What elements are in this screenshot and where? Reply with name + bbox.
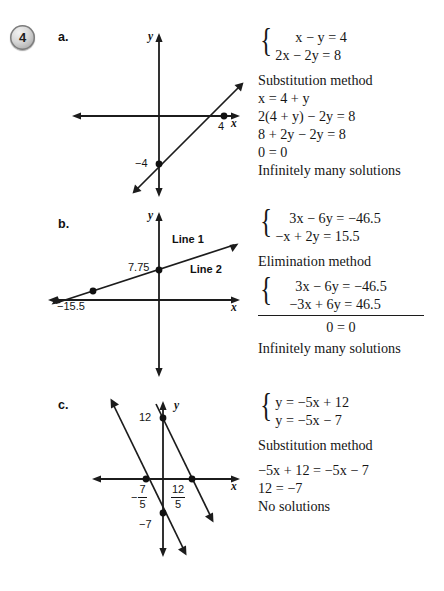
method-a: Substitution method [258, 71, 401, 89]
conclusion-b: Infinitely many solutions [258, 339, 424, 357]
point-0-12-c [160, 415, 167, 422]
spacer [258, 270, 424, 277]
elimination-system-b: { 3x − 6y = −46.5 −3x + 6y = 46.5 [258, 277, 424, 313]
line-a [136, 86, 240, 190]
work-part-c: { y = −5x + 12 y = −5x − 7 Substitution … [258, 393, 373, 515]
elimination-eq-b-2: −3x + 6y = 46.5 [275, 295, 386, 313]
tick-label-y-7-75-b: 7.75 [128, 261, 149, 273]
point-4-0-a [221, 113, 228, 120]
graph-part-a: y x 4 −4 [0, 0, 250, 200]
system-brace-c: { [260, 388, 272, 429]
tick-label-y-12-c: 12 [139, 411, 151, 423]
equation-c-2: y = −5x − 7 [275, 411, 349, 429]
point-0-neg4-a [156, 161, 163, 168]
system-part-a: { x − y = 4 2x − 2y = 8 [258, 28, 401, 64]
work-part-b: { 3x − 6y = −46.5 −x + 2y = 15.5 Elimina… [258, 209, 424, 357]
graph-part-c: y x 12 −7 − 7 5 12 5 [0, 380, 250, 591]
equation-a-2: 2x − 2y = 8 [275, 46, 346, 64]
tick-label-x-neg-7-over-5-c: − 7 5 [131, 484, 147, 510]
y-axis-arrow-down-b [155, 368, 162, 377]
equation-b-1: 3x − 6y = −46.5 [275, 209, 380, 227]
fraction-denominator-5: 5 [174, 499, 182, 511]
point-neg7-over-5-0-c [143, 476, 150, 483]
x-axis-label-c: x [231, 480, 237, 492]
y-axis-label-c: y [174, 399, 179, 411]
step-a-4: 0 = 0 [258, 143, 401, 161]
step-a-3: 8 + 2y − 2y = 8 [258, 125, 401, 143]
fraction-denominator-5: 5 [138, 499, 146, 511]
y-axis-arrow-down-c [159, 548, 166, 557]
point-12-over-5-0-c [189, 476, 196, 483]
method-b: Elimination method [258, 252, 424, 270]
y-axis-label-b: y [148, 209, 153, 221]
tick-label-x-neg15-5-b: −15.5 [57, 300, 85, 312]
system-part-b: { 3x − 6y = −46.5 −x + 2y = 15.5 [258, 209, 424, 245]
elimination-eq-b-1: 3x − 6y = −46.5 [275, 277, 386, 295]
y-axis-arrow-up-a [155, 33, 162, 42]
spacer [258, 245, 424, 252]
tick-label-x-4-a: 4 [218, 120, 224, 132]
work-part-a: { x − y = 4 2x − 2y = 8 Substitution met… [258, 28, 401, 179]
point-neg15-5-0-b [90, 288, 97, 295]
point-0-neg7-c [160, 510, 167, 517]
spacer [258, 64, 401, 71]
y-axis-label-a: y [148, 30, 153, 42]
spacer [258, 429, 373, 436]
method-c: Substitution method [258, 436, 373, 454]
tick-label-y-neg4-a: −4 [135, 157, 148, 169]
system-part-c: { y = −5x + 12 y = −5x − 7 [258, 393, 373, 429]
line-b-arrow-right [230, 244, 239, 253]
step-c-2: 12 = −7 [258, 479, 373, 497]
y-axis-arrow-up-c [159, 401, 166, 410]
x-axis-label-a: x [231, 117, 237, 129]
system-brace-a: { [260, 23, 272, 64]
x-axis-arrow-left-c [92, 475, 101, 482]
x-axis-label-b: x [231, 301, 237, 313]
fraction-sign-neg7-5: − [131, 491, 137, 503]
equation-a-1: x − y = 4 [275, 28, 346, 46]
graph-part-b: y x Line 1 Line 2 7.75 −15.5 [0, 190, 250, 380]
x-axis-arrow-left-a [72, 112, 81, 119]
step-a-1: x = 4 + y [258, 89, 401, 107]
line-2-label-b: Line 2 [190, 263, 222, 275]
tick-label-y-neg7-c: −7 [139, 518, 152, 530]
conclusion-c: No solutions [258, 497, 373, 515]
spacer [258, 454, 373, 461]
fraction-numerator-7: 7 [138, 484, 146, 496]
point-0-7-75-b [156, 267, 163, 274]
conclusion-a: Infinitely many solutions [258, 161, 401, 179]
elimination-sum-b: 0 = 0 [258, 315, 424, 336]
worked-solutions-page: 4 a. y x 4 −4 { x − y = [0, 0, 444, 591]
y-axis-arrow-up-b [155, 212, 162, 221]
fraction-numerator-12: 12 [171, 484, 185, 496]
step-a-2: 2(4 + y) − 2y = 8 [258, 107, 401, 125]
tick-label-x-12-over-5-c: 12 5 [170, 484, 185, 510]
system-brace-b: { [260, 204, 272, 245]
elimination-brace-b: { [260, 272, 272, 313]
equation-c-1: y = −5x + 12 [275, 393, 349, 411]
step-c-1: −5x + 12 = −5x − 7 [258, 461, 373, 479]
line-1-label-b: Line 1 [172, 233, 204, 245]
equation-b-2: −x + 2y = 15.5 [275, 227, 380, 245]
